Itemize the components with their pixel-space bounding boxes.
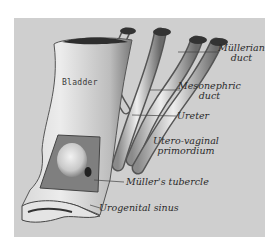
label-mullers-tubercle: Müller's tubercle [126, 177, 209, 187]
label-ureter: Ureter [177, 111, 209, 121]
anatomy-illustration [0, 0, 280, 251]
label-bladder: Bladder [62, 78, 98, 87]
label-urogenital-sinus: Urogenital sinus [99, 203, 179, 213]
label-mullerian-duct: Müllerian duct [218, 43, 265, 63]
label-mesonephric-duct: Mesonephric duct [178, 81, 241, 101]
bladder-body [22, 38, 132, 223]
label-utero-vaginal-primordium: Utero-vaginal primordium [153, 136, 219, 156]
mullers-tubercle-shape [57, 143, 87, 177]
